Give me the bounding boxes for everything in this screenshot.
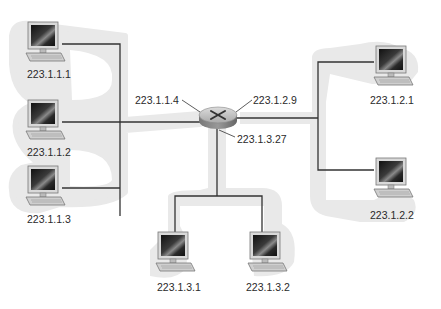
computer-icon — [374, 158, 413, 197]
host-label: 223.1.1.3 — [27, 213, 71, 225]
router-interface-label: 223.1.2.9 — [253, 94, 297, 106]
host-label: 223.1.3.2 — [246, 281, 290, 293]
router-interface-label: 223.1.1.4 — [135, 94, 179, 106]
host-label: 223.1.1.2 — [27, 146, 71, 158]
host-label: 223.1.2.2 — [370, 209, 414, 221]
network-diagram: 223.1.1.1 223.1.1.2 223.1.1.3 223.1.2.1 … — [0, 0, 441, 309]
computer-icon — [156, 232, 195, 271]
host-label: 223.1.3.1 — [157, 281, 201, 293]
host-label: 223.1.1.1 — [27, 68, 71, 80]
host-label: 223.1.2.1 — [370, 94, 414, 106]
router-icon — [199, 107, 237, 129]
router-interface-label: 223.1.3.27 — [237, 133, 287, 145]
